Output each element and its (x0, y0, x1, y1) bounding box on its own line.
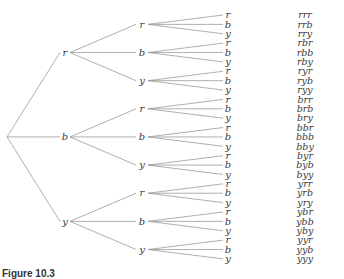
outcome-list: rrrrrbrryrbrrbbrbyryrrybryybrrbrbbrybbrb… (295, 9, 315, 264)
edge-level1-to-level2 (70, 53, 136, 81)
edge-level2-to-leaf (148, 53, 223, 62)
level2-node-label: y (138, 75, 145, 86)
leaf-node-label: y (224, 253, 231, 264)
level2-node-label: y (138, 159, 145, 170)
edge-level2-to-leaf (148, 193, 223, 202)
edge-level2-to-leaf (148, 24, 223, 33)
edge-level2-to-leaf (148, 99, 223, 108)
edge-level2-to-leaf (148, 184, 223, 193)
edge-level2-to-leaf (148, 240, 223, 249)
edge-level2-to-leaf (148, 250, 223, 259)
edge-root-to-level1 (7, 53, 60, 137)
edge-level1-to-level2 (70, 193, 136, 221)
level2-node-label: b (139, 47, 145, 58)
edge-level1-to-level2 (70, 24, 136, 52)
edge-level1-to-level2 (70, 221, 136, 249)
edge-level2-to-leaf (148, 221, 223, 230)
outcome-label: yyy (296, 253, 314, 264)
edge-level2-to-leaf (148, 43, 223, 52)
edge-level2-to-leaf (148, 128, 223, 137)
edge-level2-to-leaf (148, 109, 223, 118)
edge-level1-to-level2 (70, 109, 136, 137)
edge-level1-to-level2 (70, 137, 136, 165)
level2-node-label: r (140, 103, 146, 114)
figure-caption: Figure 10.3 (2, 268, 55, 279)
level2-node-label: r (140, 19, 146, 30)
level1-node-label: b (62, 131, 68, 142)
level2-node-label: y (138, 244, 145, 255)
level2-node-label: b (139, 131, 145, 142)
edge-level2-to-leaf (148, 212, 223, 221)
tree-edges (7, 15, 223, 259)
level1-node-label: r (63, 47, 69, 58)
probability-tree-diagram: rbyrbyrbyrbyrbyrbyrbyrbyrbyrbyrbyrbyrby … (0, 0, 344, 279)
level2-node-label: b (139, 216, 145, 227)
edge-level2-to-leaf (148, 81, 223, 90)
edge-level2-to-leaf (148, 156, 223, 165)
edge-level2-to-leaf (148, 15, 223, 24)
edge-root-to-level1 (7, 137, 60, 221)
level1-node-label: y (61, 216, 68, 227)
edge-level2-to-leaf (148, 137, 223, 146)
edge-level2-to-leaf (148, 165, 223, 174)
edge-level2-to-leaf (148, 71, 223, 80)
level2-node-label: r (140, 187, 146, 198)
